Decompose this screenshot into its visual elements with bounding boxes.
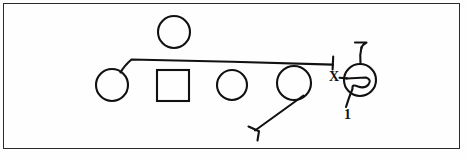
x-connector: [340, 78, 348, 79]
spiral-stem: [360, 47, 361, 64]
top-circle: [158, 16, 190, 48]
diagram-canvas: X 1: [0, 0, 467, 160]
left-circle: [96, 69, 128, 101]
diagram-drawing: [0, 0, 467, 160]
x-label: X: [329, 70, 339, 84]
middle-circle: [217, 70, 247, 100]
spiral-glyph: [347, 78, 370, 89]
spiral-circle: [344, 64, 376, 96]
flag-terminator-top: [355, 43, 367, 49]
flag-terminator-right: [333, 57, 334, 70]
diagonal-branch: [255, 96, 304, 131]
one-label: 1: [344, 108, 351, 122]
square-node: [157, 70, 189, 101]
fourth-circle: [277, 66, 311, 100]
